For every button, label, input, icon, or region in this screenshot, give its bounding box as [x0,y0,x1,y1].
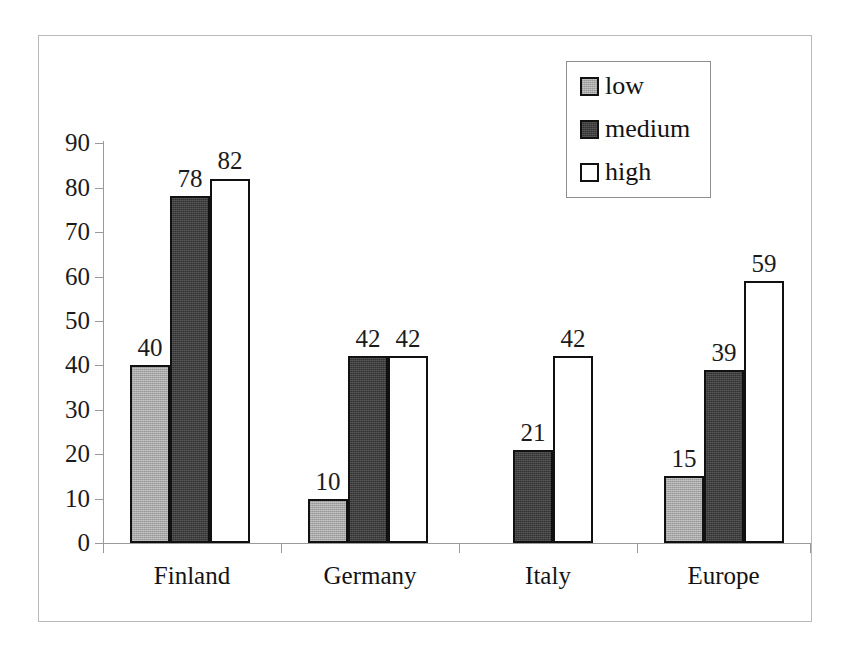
x-tick-0 [103,543,104,553]
bar-europe-medium[interactable] [704,370,744,543]
y-tick-label-60: 60 [34,264,90,289]
category-label-germany: Germany [281,562,459,590]
y-tick-label-40: 40 [34,352,90,377]
y-tick-label-70: 70 [34,219,90,244]
legend-item-low[interactable]: low [580,71,644,101]
y-tick-label-10: 10 [34,486,90,511]
y-tick-label-50: 50 [34,308,90,333]
legend-item-medium[interactable]: medium [580,114,690,144]
x-tick-3 [637,543,638,553]
bar-europe-high[interactable] [744,281,784,543]
bar-germany-low[interactable] [308,499,348,543]
x-axis-line [103,543,811,544]
bar-finland-medium[interactable] [170,196,210,543]
category-label-finland: Finland [103,562,281,590]
category-label-italy: Italy [459,562,637,590]
bar-value-finland-high: 82 [200,148,260,173]
legend-label-low: low [605,73,644,99]
category-label-europe: Europe [637,562,810,590]
legend-swatch-low-icon [580,77,599,96]
bar-italy-high[interactable] [553,356,593,543]
legend-swatch-medium-icon [580,120,599,139]
bar-italy-medium[interactable] [513,450,553,543]
legend-label-medium: medium [605,116,690,142]
chart-figure: 90 80 70 60 50 40 30 20 10 0 40 78 82 10… [0,0,852,659]
bar-value-germany-high: 42 [378,326,438,351]
chart-legend: low medium high [566,61,711,198]
bar-germany-medium[interactable] [348,356,388,543]
x-tick-4 [810,543,811,553]
y-tick-label-30: 30 [34,397,90,422]
y-tick-label-90: 90 [34,130,90,155]
bar-value-italy-high: 42 [543,326,603,351]
legend-item-high[interactable]: high [580,157,651,187]
bar-value-europe-high: 59 [734,251,794,276]
y-tick-label-20: 20 [34,441,90,466]
bar-finland-high[interactable] [210,179,250,543]
bar-europe-low[interactable] [664,476,704,543]
x-tick-1 [281,543,282,553]
legend-swatch-high-icon [580,163,599,182]
plot-area: 40 78 82 10 42 42 21 42 15 39 59 [103,143,810,543]
bar-finland-low[interactable] [130,365,170,543]
y-tick-label-80: 80 [34,175,90,200]
y-tick-label-0: 0 [34,530,90,555]
bar-germany-high[interactable] [388,356,428,543]
x-tick-2 [459,543,460,553]
legend-label-high: high [605,159,651,185]
